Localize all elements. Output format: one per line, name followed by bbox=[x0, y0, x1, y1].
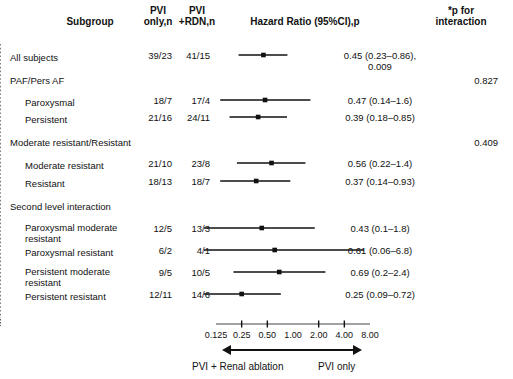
row-label: Persistent moderate resistant bbox=[25, 266, 135, 288]
arrow-label-right: PVI only bbox=[318, 361, 355, 373]
cell-pvi-rdn: 10/5 bbox=[176, 267, 210, 278]
row-label: Moderate resistant/Resistant bbox=[10, 137, 131, 148]
cell-hazard-ratio-text: 0.25 (0.09–0.72) bbox=[305, 289, 455, 300]
cell-pvi-only: 6/2 bbox=[138, 245, 172, 256]
point-estimate-marker bbox=[277, 270, 282, 275]
cell-pvi-rdn: 24/11 bbox=[176, 112, 210, 123]
point-estimate-marker bbox=[261, 53, 266, 58]
point-estimate-marker bbox=[269, 161, 274, 166]
cell-pvi-only: 21/16 bbox=[138, 112, 172, 123]
row-label: Moderate resistant bbox=[25, 160, 135, 171]
arrow-label-left: PVI + Renal ablation bbox=[192, 361, 283, 373]
cell-hazard-ratio-text: 0.45 (0.23–0.86), 0.009 bbox=[305, 50, 455, 72]
direction-arrow-head-right bbox=[353, 345, 362, 355]
column-header-hazard-ratio: Hazard Ratio (95%CI),p bbox=[230, 16, 380, 27]
cell-pvi-only: 18/7 bbox=[138, 95, 172, 106]
column-header-subgroup: Subgroup bbox=[30, 16, 150, 27]
cell-pvi-only: 39/23 bbox=[138, 50, 172, 61]
point-estimate-marker bbox=[239, 292, 244, 297]
cell-hazard-ratio-text: 0.43 (0.1–1.8) bbox=[305, 223, 455, 234]
axis-tick-label: 8.00 bbox=[353, 330, 387, 340]
row-label: PAF/Pers AF bbox=[10, 75, 64, 86]
point-estimate-marker bbox=[254, 179, 259, 184]
cell-pvi-rdn: 13/3 bbox=[176, 223, 210, 234]
row-label: Paroxysmal bbox=[25, 97, 135, 108]
row-label: Persistent resistant bbox=[25, 291, 135, 302]
cell-hazard-ratio-text: 0.61 (0.06–6.8) bbox=[305, 245, 455, 256]
direction-arrow-head-left bbox=[222, 345, 231, 355]
column-header-pvi-only: PVI only,n bbox=[138, 5, 178, 27]
point-estimate-marker bbox=[256, 115, 261, 120]
cell-pvi-rdn: 17/4 bbox=[176, 95, 210, 106]
cell-pvi-only: 21/10 bbox=[138, 158, 172, 169]
cell-hazard-ratio-text: 0.37 (0.14–0.93) bbox=[305, 176, 455, 187]
row-label: Paroxysmal resistant bbox=[25, 247, 135, 258]
cell-pvi-rdn: 23/8 bbox=[176, 158, 210, 169]
point-estimate-marker bbox=[272, 248, 277, 253]
cell-pvi-rdn: 41/15 bbox=[176, 50, 210, 61]
point-estimate-marker bbox=[263, 98, 268, 103]
column-header-pvi-rdn: PVI +RDN,n bbox=[176, 5, 218, 27]
cell-hazard-ratio-text: 0.39 (0.18–0.85) bbox=[305, 112, 455, 123]
row-label: Paroxysmal moderate resistant bbox=[25, 222, 135, 244]
cell-pvi-only: 18/13 bbox=[138, 176, 172, 187]
cell-pvi-rdn: 14/6 bbox=[176, 289, 210, 300]
cell-hazard-ratio-text: 0.56 (0.22–1.4) bbox=[305, 158, 455, 169]
cell-pvi-only: 12/11 bbox=[138, 289, 172, 300]
cell-pvi-only: 12/5 bbox=[138, 223, 172, 234]
row-label: Second level interaction bbox=[10, 201, 111, 212]
row-label: Persistent bbox=[25, 114, 135, 125]
cell-pvi-rdn: 18/7 bbox=[176, 176, 210, 187]
cell-pvi-rdn: 4/1 bbox=[176, 245, 210, 256]
point-estimate-marker bbox=[259, 226, 264, 231]
cell-p-interaction: 0.827 bbox=[428, 75, 498, 86]
cell-hazard-ratio-text: 0.69 (0.2–2.4) bbox=[305, 267, 455, 278]
cell-p-interaction: 0.409 bbox=[428, 137, 498, 148]
row-label: All subjects bbox=[10, 52, 58, 63]
cell-pvi-only: 9/5 bbox=[138, 267, 172, 278]
row-label: Resistant bbox=[25, 178, 135, 189]
column-header-p-interaction: *p for interaction bbox=[413, 5, 509, 27]
cell-hazard-ratio-text: 0.47 (0.14–1.6) bbox=[305, 95, 455, 106]
